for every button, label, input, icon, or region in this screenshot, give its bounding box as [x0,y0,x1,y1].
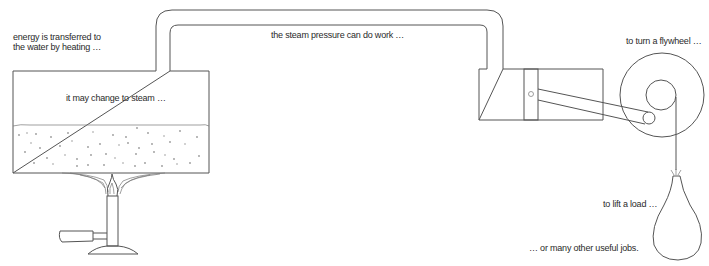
jobs-label: … or many other useful jobs. [529,243,638,253]
steam-label: it may change to steam … [66,93,166,103]
cylinder [479,69,603,120]
steam-pipe [156,10,503,71]
flywheel [620,53,704,170]
flywheel-label: to turn a flywheel … [626,36,702,46]
pressure-label: the steam pressure can do work … [271,30,404,40]
heating-label-line1: energy is transferred to [13,32,101,42]
knot-icon [671,169,681,175]
piston-pin [529,92,534,97]
water-bubbles [18,127,200,167]
piston [524,69,538,120]
connecting-rod [538,89,655,124]
bunsen-burner [59,174,138,254]
heating-label-line2: the water by heating … [13,42,101,52]
boiler [13,71,209,173]
load-label: to lift a load … [603,199,657,209]
load-bag [653,169,701,260]
